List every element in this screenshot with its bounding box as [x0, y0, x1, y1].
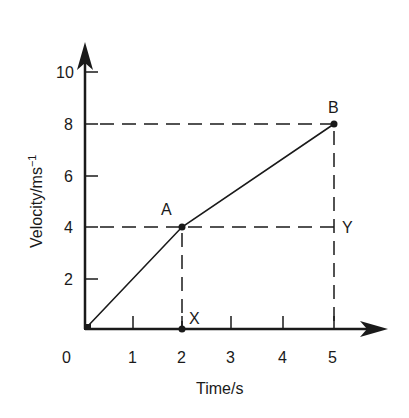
- y-tick-label-2: 2: [64, 271, 73, 288]
- velocity-time-chart: 0 1 2 3 4 5 2 4 6 8 10 A B X Y Time/s Ve…: [0, 0, 409, 418]
- point-b-label: B: [328, 99, 339, 116]
- point-a-label: A: [161, 201, 172, 218]
- dashed-guides: [100, 124, 334, 329]
- x-axis-title: Time/s: [196, 380, 243, 397]
- x-tick-label-4: 4: [278, 349, 287, 366]
- point-y-label: Y: [342, 219, 353, 236]
- x-tick-label-3: 3: [226, 349, 235, 366]
- point-b-marker: [331, 121, 338, 128]
- svg-text:Velocity/ms−1: Velocity/ms−1: [26, 155, 45, 248]
- point-x-marker: [179, 326, 186, 333]
- y-tick-label-4: 4: [64, 219, 73, 236]
- point-x-label: X: [189, 310, 200, 327]
- x-tick-label-5: 5: [328, 349, 337, 366]
- velocity-line: [87, 124, 334, 327]
- y-tick-label-6: 6: [64, 168, 73, 185]
- y-tick-label-10: 10: [56, 64, 74, 81]
- x-ticks: [133, 316, 334, 329]
- y-tick-label-8: 8: [64, 116, 73, 133]
- x-tick-label-2: 2: [177, 349, 186, 366]
- y-ticks: [85, 72, 98, 279]
- y-axis-title: Velocity/ms−1: [26, 155, 45, 248]
- x-tick-label-1: 1: [128, 349, 137, 366]
- origin-label: 0: [62, 349, 71, 366]
- origin-marker: [84, 324, 91, 330]
- point-a-marker: [179, 224, 186, 231]
